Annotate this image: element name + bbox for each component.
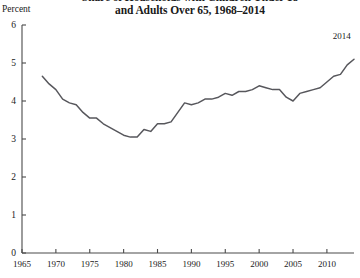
annotation-2014: 2014 xyxy=(333,31,352,41)
y-tick-label: 3 xyxy=(11,134,16,144)
chart-figure: Share of Households with Children Under … xyxy=(0,0,360,278)
y-axis-ticks: 0123456 xyxy=(11,20,26,258)
y-tick-label: 1 xyxy=(11,210,16,220)
y-tick-label: 2 xyxy=(11,172,16,182)
x-tick-label: 2010 xyxy=(318,259,337,269)
x-axis-ticks: 1965197019751980198519901995200020052010 xyxy=(13,249,336,269)
x-tick-label: 1975 xyxy=(81,259,100,269)
chart-annotations: 2014 xyxy=(333,31,352,41)
x-tick-label: 1970 xyxy=(47,259,66,269)
y-tick-label: 4 xyxy=(11,96,16,106)
x-tick-label: 1985 xyxy=(149,259,168,269)
x-tick-label: 1995 xyxy=(216,259,235,269)
x-tick-label: 1990 xyxy=(182,259,201,269)
data-series-line xyxy=(42,59,354,137)
y-tick-label: 0 xyxy=(11,248,16,258)
y-tick-label: 5 xyxy=(11,58,16,68)
y-tick-label: 6 xyxy=(11,20,16,30)
x-tick-label: 1980 xyxy=(115,259,134,269)
x-tick-label: 2000 xyxy=(250,259,269,269)
chart-plot-area: 0123456 19651970197519801985199019952000… xyxy=(0,0,360,278)
x-tick-label: 2005 xyxy=(284,259,303,269)
x-tick-label: 1965 xyxy=(13,259,32,269)
